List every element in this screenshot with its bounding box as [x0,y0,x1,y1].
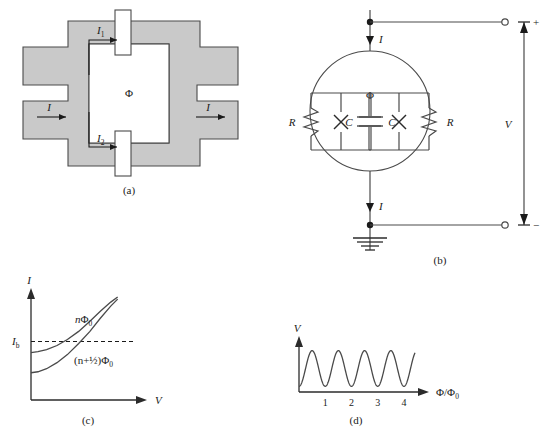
panel-c-label: (c) [82,414,95,427]
voltage-label: V [505,118,513,130]
panel-d-yaxis-arrow [295,336,303,347]
panel-d-tick-3: 3 [375,397,380,408]
panel-a: Φ I I I1 I2 (a) [23,10,238,197]
flux-modulation-curve [299,351,415,387]
capacitor-right-icon [357,117,381,126]
figure-canvas: Φ I I I1 I2 (a) [0,0,557,446]
squid-ring-circle [310,51,430,171]
panel-b: I + I − V Φ [288,10,540,267]
iv-curve-lower-label: (n+½)Φ0 [74,354,113,369]
panel-d-tick-1: 1 [323,397,328,408]
bottom-current-arrow [366,203,374,212]
capacitor-right-label: C [345,116,353,128]
capacitor-left-icon [359,117,383,126]
panel-a-flux-label: Φ [125,87,133,99]
panel-c-xlabel: V [155,394,163,406]
panel-b-label: (b) [434,254,447,267]
plus-terminal-circle [502,19,508,25]
panel-d: V Φ/Φ0 1 2 3 4 (d) [294,322,460,427]
panel-b-flux-label: Φ [366,89,374,101]
resistor-left-label: R [288,116,296,128]
minus-terminal-label: − [533,219,539,231]
plus-terminal-label: + [533,16,539,28]
panel-c-ylabel: I [26,274,32,286]
panel-d-xlabel: Φ/Φ0 [436,386,459,401]
voltage-measure-indicator [518,22,530,225]
panel-c-yaxis-arrow [27,288,35,299]
junction-bottom [115,131,131,176]
resistor-right-label: R [446,116,454,128]
panel-d-ylabel: V [294,322,302,334]
panel-d-ticks: 1 2 3 4 [323,397,407,408]
panel-d-tick-4: 4 [402,397,407,408]
junction-top [115,10,131,55]
panel-d-xaxis-arrow [418,388,429,396]
squid-figure: Φ I I I1 I2 (a) [0,0,557,446]
minus-terminal-circle [502,222,508,228]
panel-c: I V Ib nΦ0 (n+½)Φ0 (c) [11,274,163,427]
panel-a-label: (a) [123,184,136,197]
top-current-label: I [378,33,384,45]
panel-d-label: (d) [350,414,363,427]
bias-current-label: Ib [11,335,20,350]
iv-curve-upper-label: nΦ0 [75,313,93,328]
panel-c-xaxis-arrow [136,396,147,404]
top-current-arrow [366,36,374,45]
bottom-current-label: I [378,200,384,212]
panel-d-tick-2: 2 [349,397,354,408]
